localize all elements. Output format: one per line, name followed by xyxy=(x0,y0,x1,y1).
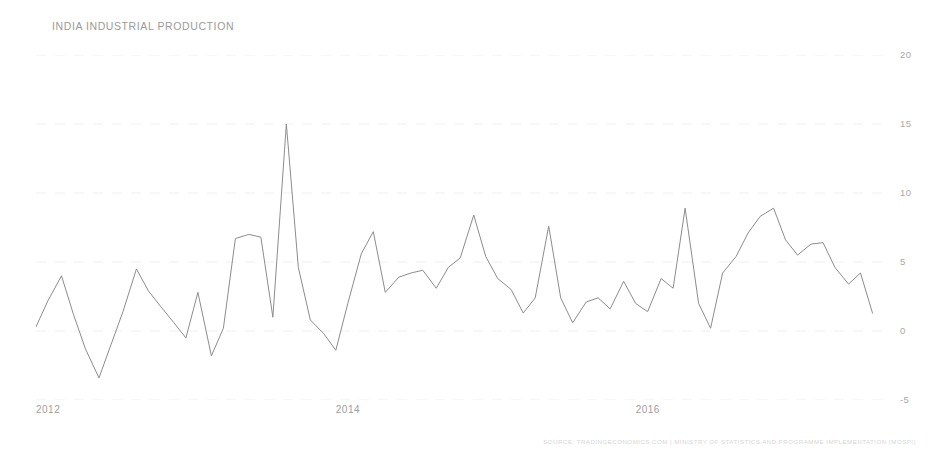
y-axis-tick-label: 5 xyxy=(900,257,906,267)
y-axis-tick-label: 15 xyxy=(900,119,911,129)
y-axis-tick-label: 10 xyxy=(900,188,911,198)
y-axis: 20151050-5 xyxy=(888,55,928,400)
x-axis: 201220142016 xyxy=(36,404,886,424)
x-axis-tick-label: 2016 xyxy=(636,404,660,415)
plot-svg xyxy=(36,55,886,400)
plot-area xyxy=(36,55,886,400)
series-line xyxy=(36,124,873,378)
x-axis-tick-label: 2012 xyxy=(36,404,60,415)
gridlines xyxy=(36,55,886,400)
chart-title: INDIA INDUSTRIAL PRODUCTION xyxy=(52,20,234,32)
y-axis-tick-label: 20 xyxy=(900,50,911,60)
y-axis-tick-label: 0 xyxy=(900,326,906,336)
y-axis-tick-label: -5 xyxy=(900,395,909,405)
industrial-production-chart: INDIA INDUSTRIAL PRODUCTION 20151050-5 2… xyxy=(0,0,929,470)
x-axis-tick-label: 2014 xyxy=(336,404,360,415)
chart-source-attribution: SOURCE: TRADINGECONOMICS.COM | MINISTRY … xyxy=(416,438,916,445)
